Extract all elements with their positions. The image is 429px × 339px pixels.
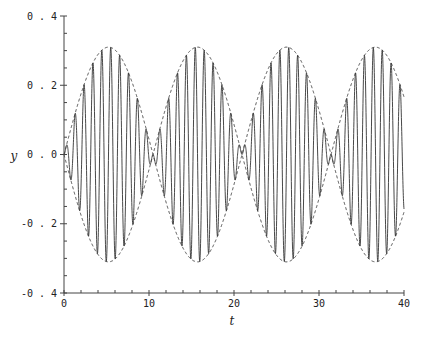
- x-tick-label: 30: [313, 298, 325, 309]
- x-tick-label: 0: [61, 298, 67, 309]
- y-tick-label: 0 . 0: [27, 149, 57, 160]
- x-tick-label: 20: [228, 298, 240, 309]
- plot-area: [64, 47, 404, 262]
- y-tick-label: 0 . 2: [27, 80, 57, 91]
- y-tick-label: -0 . 2: [21, 218, 57, 229]
- y-axis-label: y: [10, 149, 18, 163]
- chart: 010203040 -0 . 4-0 . 20 . 00 . 20 . 4 t …: [0, 0, 429, 339]
- x-tick-label: 10: [143, 298, 155, 309]
- upper-envelope-line: [64, 47, 404, 154]
- y-tick-label: -0 . 4: [21, 288, 57, 299]
- y-tick-label: 0 . 4: [27, 11, 57, 22]
- y-ticks: -0 . 4-0 . 20 . 00 . 20 . 4: [21, 11, 67, 299]
- x-axis-label: t: [230, 314, 235, 328]
- x-tick-label: 40: [398, 298, 410, 309]
